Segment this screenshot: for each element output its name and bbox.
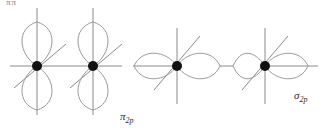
- sigma-atom-3: [133, 28, 220, 104]
- sigma-atom-4-nucleus: [260, 61, 270, 71]
- orbital-diagram-canvas: [0, 0, 323, 133]
- sigma-subscript: 2p: [299, 95, 307, 104]
- pi-atom-1-nucleus: [32, 61, 42, 71]
- pi-2p-diagram: [10, 8, 122, 115]
- sigma-2p-label: σ2p: [294, 90, 307, 104]
- orbital-overlap-figure: ππ: [0, 0, 323, 133]
- pi-atom-2-nucleus: [88, 61, 98, 71]
- pi-2p-label: π2p: [120, 111, 134, 125]
- sigma-atom-3-right-lobe: [177, 53, 220, 79]
- pi-subscript: 2p: [126, 116, 134, 125]
- pi-atom-1: [14, 8, 66, 115]
- pi-atom-2: [70, 8, 122, 115]
- sigma-2p-diagram: [133, 28, 318, 104]
- sigma-atom-3-nucleus: [172, 61, 182, 71]
